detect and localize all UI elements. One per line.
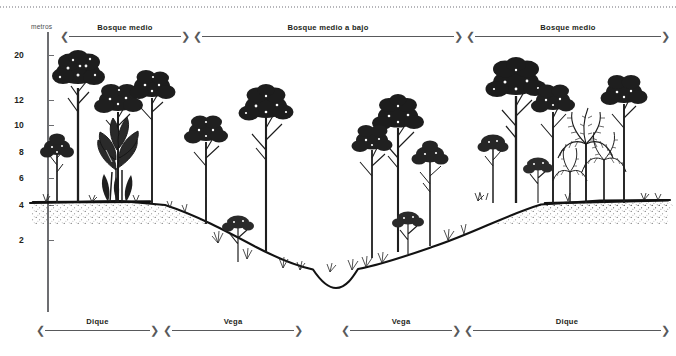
canopy-mass <box>239 84 294 121</box>
arrow-right-icon: ❯ <box>661 325 670 336</box>
band-label: Vega <box>341 317 461 326</box>
axis-tick-20: 20 <box>0 51 55 60</box>
sedge-clumps-right <box>327 224 466 272</box>
arrow-right-icon: ❯ <box>150 325 159 336</box>
arrow-right-icon: ❯ <box>661 31 670 42</box>
axis-tick-mark <box>47 100 54 102</box>
band-label: Dique <box>464 317 670 326</box>
tree-emergent-left <box>52 50 105 202</box>
y-axis-line <box>47 32 49 312</box>
bottom-band-vega-right: ❮ ❯ Vega <box>341 318 461 338</box>
axis-tick-label: 6 <box>6 174 24 182</box>
palm-tree <box>582 132 626 203</box>
canopy-mass <box>52 50 105 85</box>
band-label: Bosque medio a bajo <box>193 23 463 32</box>
axis-tick-mark <box>47 240 54 242</box>
arrow-right-icon: ❯ <box>294 325 303 336</box>
arrow-right-icon: ❯ <box>454 31 463 42</box>
arrow-left-icon: ❮ <box>341 325 350 336</box>
axis-tick-label: 12 <box>6 96 24 104</box>
shrub-floodplain-left <box>222 216 254 263</box>
axis-unit-label: metros <box>31 23 52 30</box>
left-levee-vegetation <box>40 50 176 203</box>
band-rail <box>69 36 181 37</box>
palm-cluster-right <box>553 108 626 203</box>
ground-line <box>30 200 670 288</box>
axis-tick-label: 10 <box>6 121 24 129</box>
canopy-mass <box>412 141 449 165</box>
band-rail <box>350 330 452 331</box>
arrow-left-icon: ❮ <box>36 325 45 336</box>
tree-canopy-left-2 <box>94 84 143 202</box>
right-levee-vegetation <box>475 57 661 203</box>
canopy-mass <box>184 116 228 144</box>
arrow-left-icon: ❮ <box>163 325 172 336</box>
canopy-mass <box>478 135 509 153</box>
canopy-mass <box>523 158 553 174</box>
top-band-bosque-medio-left: ❮ ❯ Bosque medio <box>60 24 190 44</box>
axis-tick-label: 2 <box>6 236 24 244</box>
tree-canopy-right-3 <box>601 75 648 203</box>
arrow-left-icon: ❮ <box>193 31 202 42</box>
tree-floodplain-right-2 <box>352 125 393 258</box>
band-label: Vega <box>163 317 303 326</box>
axis-tick-6: 6 <box>0 174 55 183</box>
arrow-left-icon: ❮ <box>466 31 475 42</box>
axis-tick-4: 4 <box>0 201 55 210</box>
shrub-floodplain-right <box>392 212 424 255</box>
tree-subcanopy-right <box>478 135 509 204</box>
grass-tufts-left <box>43 194 139 202</box>
arrow-right-icon: ❯ <box>181 31 190 42</box>
tree-canopy-left-3 <box>130 70 176 203</box>
band-rail <box>45 330 150 331</box>
band-label: Bosque medio <box>466 23 670 32</box>
bottom-band-dique-left: ❮ ❯ Dique <box>36 318 159 338</box>
canopy-mass <box>94 84 143 113</box>
axis-tick-mark <box>47 178 54 180</box>
forest-profile-figure: metros 20 12 10 8 6 4 2 ❮ ❯ Bosque medio… <box>0 0 676 356</box>
top-dotted-rule <box>0 6 676 8</box>
axis-tick-label: 20 <box>6 51 24 59</box>
top-band-bosque-medio-right: ❮ ❯ Bosque medio <box>466 24 670 44</box>
arrow-left-icon: ❮ <box>464 325 473 336</box>
bottom-band-vega-left: ❮ ❯ Vega <box>163 318 303 338</box>
canopy-mass <box>486 57 547 97</box>
band-rail <box>475 36 661 37</box>
tree-floodplain-right-3 <box>412 141 449 247</box>
tree-small-left-edge <box>40 134 74 204</box>
band-rail <box>473 330 661 331</box>
axis-tick-10: 10 <box>0 121 55 130</box>
axis-tick-label: 4 <box>6 201 24 209</box>
axis-tick-mark <box>47 55 54 57</box>
tree-canopy-right-2 <box>531 85 575 204</box>
palm-tree <box>553 148 587 203</box>
canopy-mass <box>352 125 393 152</box>
axis-tick-label: 8 <box>6 148 24 156</box>
axis-tick-2: 2 <box>0 236 55 245</box>
tree-floodplain-right-1 <box>372 94 424 252</box>
tree-floodplain-left-1 <box>184 116 228 225</box>
canopy-mass <box>392 212 424 228</box>
canopy-mass <box>601 75 648 105</box>
terrain-profile <box>28 198 676 288</box>
soil-stipple-right <box>545 202 673 210</box>
band-label: Bosque medio <box>60 23 190 32</box>
canopy-mass <box>531 85 575 113</box>
bottom-band-dique-right: ❮ ❯ Dique <box>464 318 670 338</box>
band-rail <box>172 330 294 331</box>
canopy-mass <box>222 216 254 232</box>
broadleaf-understory-clump <box>98 117 139 202</box>
sedge-clumps-left <box>167 201 305 270</box>
band-label: Dique <box>36 317 159 326</box>
arrow-right-icon: ❯ <box>452 325 461 336</box>
shrub-right-levee <box>523 158 553 204</box>
palm-tree <box>558 108 613 203</box>
tree-floodplain-left-2 <box>239 84 294 252</box>
axis-tick-12: 12 <box>0 96 55 105</box>
axis-tick-8: 8 <box>0 148 55 157</box>
axis-tick-mark <box>47 205 54 207</box>
left-floodplain-vegetation <box>167 84 305 270</box>
band-rail <box>202 36 454 37</box>
top-band-bosque-medio-a-bajo: ❮ ❯ Bosque medio a bajo <box>193 24 463 44</box>
grass-tufts-right <box>475 192 661 201</box>
